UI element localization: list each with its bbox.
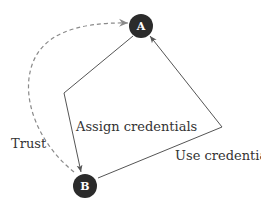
assign-credentials-label: Assign credentials	[75, 119, 197, 134]
node-a: A	[129, 14, 153, 38]
assign-credentials-edge	[64, 36, 133, 172]
diagram-svg: A B Trust Assign credentials Use credent…	[0, 0, 261, 209]
use-credentials-label: Use credentials	[175, 148, 261, 163]
node-a-label: A	[136, 20, 146, 33]
trust-label: Trust	[11, 136, 47, 151]
node-b: B	[73, 174, 97, 198]
trust-diagram: A B Trust Assign credentials Use credent…	[0, 0, 261, 209]
node-b-label: B	[80, 180, 89, 193]
